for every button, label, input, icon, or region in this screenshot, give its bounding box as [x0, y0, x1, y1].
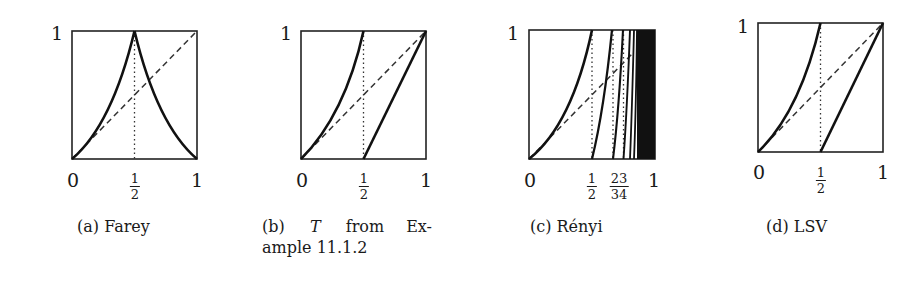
x-tick-1: 1: [877, 163, 889, 182]
x-tick-0: 0: [753, 163, 765, 182]
caption-d: (d) LSV: [766, 216, 916, 237]
lsv-plot: [0, 0, 922, 285]
y-tick-1: 1: [737, 17, 749, 36]
panel-lsv: 1 0 1 2 1 (d) LSV: [0, 0, 230, 285]
x-tick-half: 1 2: [816, 166, 826, 195]
